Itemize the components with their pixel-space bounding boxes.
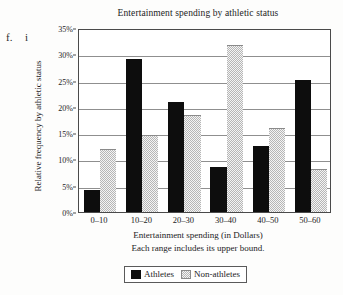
bar-nonathletes-1 — [142, 135, 158, 212]
bar-athletes-2 — [168, 102, 184, 212]
legend: Athletes Non-athletes — [124, 266, 247, 283]
y-tick-mark — [73, 134, 76, 135]
bar-nonathletes-5 — [311, 169, 327, 212]
x-axis-note: Each range includes its upper bound. — [64, 243, 332, 253]
y-tick-label: 15% — [58, 130, 73, 139]
bars-layer — [79, 30, 330, 212]
x-axis-ticks: 0–1010–2020–3030–4040–5050–60 — [78, 213, 331, 229]
bar-athletes-5 — [295, 80, 311, 212]
legend-label-nonathletes: Non-athletes — [194, 269, 240, 279]
y-tick-label: 25% — [58, 77, 73, 86]
y-tick-mark — [73, 160, 76, 161]
bar-nonathletes-3 — [227, 45, 243, 212]
x-tick-label: 40–50 — [257, 215, 278, 225]
x-tick-label: 0–10 — [91, 215, 108, 225]
y-tick-mark — [73, 29, 76, 30]
y-tick-label: 35% — [58, 25, 73, 34]
list-marker-outer: f. — [6, 31, 12, 43]
y-tick-mark — [73, 81, 76, 82]
bar-athletes-1 — [126, 59, 142, 213]
legend-swatch-athletes-icon — [131, 270, 141, 279]
bar-athletes-0 — [84, 190, 100, 212]
x-tick-label: 30–40 — [215, 215, 236, 225]
list-marker-inner: i — [25, 31, 28, 43]
y-tick-mark — [73, 107, 76, 108]
x-axis-title: Entertainment spending (in Dollars) — [64, 230, 332, 240]
y-axis-title: Relative frequency by athletic status — [33, 42, 43, 210]
bar-athletes-4 — [253, 146, 269, 212]
y-tick-mark — [73, 186, 76, 187]
bar-athletes-3 — [210, 167, 226, 212]
legend-swatch-nonathletes-icon — [181, 270, 191, 279]
y-tick-mark — [73, 213, 76, 214]
legend-label-athletes: Athletes — [144, 269, 174, 279]
y-tick-mark — [73, 55, 76, 56]
legend-entry-athletes: Athletes — [131, 269, 174, 279]
chart-title: Entertainment spending by athletic statu… — [64, 8, 332, 18]
bar-nonathletes-2 — [184, 115, 200, 212]
y-tick-label: 20% — [58, 103, 73, 112]
x-tick-label: 50–60 — [299, 215, 320, 225]
figure: f. i Entertainment spending by athletic … — [0, 0, 343, 295]
y-tick-label: 30% — [58, 51, 73, 60]
bar-nonathletes-4 — [269, 128, 285, 212]
bar-nonathletes-0 — [100, 149, 116, 212]
legend-entry-nonathletes: Non-athletes — [181, 269, 240, 279]
x-tick-label: 10–20 — [131, 215, 152, 225]
x-tick-label: 20–30 — [173, 215, 194, 225]
plot-area — [78, 29, 331, 213]
y-axis-ticks: 0%5%10%15%20%25%30%35% — [50, 29, 76, 213]
y-tick-label: 0% — [62, 209, 73, 218]
y-tick-label: 10% — [58, 156, 73, 165]
y-tick-label: 5% — [62, 182, 73, 191]
